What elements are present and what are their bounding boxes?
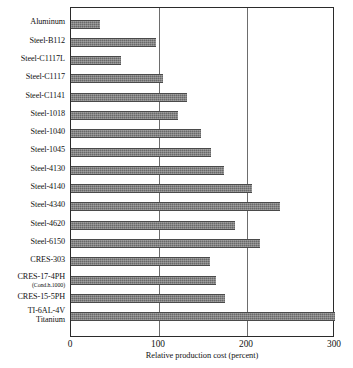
category-label-steel-4340: Steel-4340 (1, 201, 65, 210)
x-tick-200: 200 (226, 339, 266, 349)
category-label-aluminum: Aluminum (1, 18, 65, 27)
bar-steel-4140 (71, 184, 252, 193)
x-tick-0: 0 (50, 339, 90, 349)
category-label-column: AluminumSteel-B112Steel-C1117LSteel-C111… (0, 7, 68, 337)
category-sublabel: (Cond.h.1000) (1, 282, 65, 288)
category-label-steel-c1141: Steel-C1141 (1, 92, 65, 101)
category-sublabel: Titanium (1, 315, 65, 324)
category-label-steel-1018: Steel-1018 (1, 110, 65, 119)
bar-steel-4620 (71, 221, 235, 230)
x-tick-300: 300 (314, 339, 353, 349)
production-cost-bar-chart: AluminumSteel-B112Steel-C1117LSteel-C111… (0, 0, 353, 368)
bar-steel-c1117l (71, 56, 121, 65)
category-label-steel-c1117l: Steel-C1117L (1, 55, 65, 64)
plot-area (70, 7, 334, 337)
category-label-steel-b112: Steel-B112 (1, 37, 65, 46)
category-label-steel-4130: Steel-4130 (1, 165, 65, 174)
bar-steel-b112 (71, 38, 156, 47)
category-label-cres-15-5ph: CRES-15-5PH (1, 293, 65, 302)
category-label-steel-1045: Steel-1045 (1, 146, 65, 155)
bar-cres-17-4ph (71, 276, 216, 285)
x-axis-title: Relative production cost (percent) (70, 351, 334, 360)
bar-steel-6150 (71, 239, 260, 248)
category-label-steel-4140: Steel-4140 (1, 183, 65, 192)
category-label-steel-c1117: Steel-C1117 (1, 73, 65, 82)
bar-steel-4340 (71, 202, 280, 211)
x-tick-100: 100 (138, 339, 178, 349)
category-label-steel-4620: Steel-4620 (1, 220, 65, 229)
category-label-ti-6al-4v: TI-6AL-4VTitanium (1, 307, 65, 325)
bar-steel-1045 (71, 148, 211, 157)
category-label-cres-303: CRES-303 (1, 256, 65, 265)
bar-ti-6al-4v (71, 312, 335, 321)
bar-steel-c1141 (71, 93, 187, 102)
bar-aluminum (71, 20, 100, 29)
category-label-steel-1040: Steel-1040 (1, 128, 65, 137)
bar-steel-1018 (71, 111, 178, 120)
gridline-200 (247, 8, 248, 336)
category-label-cres-17-4ph: CRES-17-4PH(Cond.h.1000) (1, 273, 65, 288)
bar-steel-c1117 (71, 74, 163, 83)
bar-cres-15-5ph (71, 294, 225, 303)
bar-cres-303 (71, 257, 210, 266)
bar-steel-1040 (71, 129, 201, 138)
category-label-steel-6150: Steel-6150 (1, 238, 65, 247)
bar-steel-4130 (71, 166, 224, 175)
